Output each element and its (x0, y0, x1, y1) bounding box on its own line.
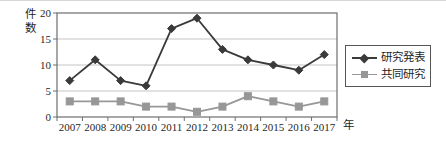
y-tick-label: 0 (46, 111, 52, 123)
square-marker-icon (194, 108, 201, 115)
y-tick-label: 10 (40, 59, 52, 71)
legend-swatch (352, 70, 377, 79)
x-tick-label: 2016 (288, 121, 311, 133)
diamond-marker-icon (168, 25, 176, 33)
x-tick-label: 2017 (313, 121, 336, 133)
x-tick-label: 2010 (135, 121, 158, 133)
square-marker-icon (168, 103, 175, 110)
diamond-marker-icon (295, 66, 303, 74)
x-tick-label: 2007 (59, 121, 82, 133)
legend-item-1: 共同研究 (352, 69, 430, 81)
diamond-marker-icon (142, 82, 150, 90)
square-marker-icon (361, 71, 368, 78)
line-chart-figure: 0510152020072008200920102011201220132014… (0, 0, 446, 144)
y-axis-title: 件数 (23, 8, 35, 36)
diamond-marker-icon (320, 51, 328, 59)
square-marker-icon (66, 98, 73, 105)
x-tick-label: 2012 (186, 121, 208, 133)
square-marker-icon (219, 103, 226, 110)
square-marker-icon (321, 98, 328, 105)
diamond-marker-icon (244, 56, 252, 64)
diamond-marker-icon (269, 61, 277, 69)
square-marker-icon (270, 98, 277, 105)
x-tick-label: 2013 (211, 121, 234, 133)
x-tick-label: 2011 (161, 121, 183, 133)
y-tick-label: 20 (40, 7, 52, 19)
x-axis-unit-label: 年 (343, 120, 354, 132)
x-tick-label: 2014 (237, 121, 260, 133)
square-marker-icon (117, 98, 124, 105)
legend-label: 共同研究 (381, 69, 425, 81)
x-tick-label: 2008 (84, 121, 107, 133)
square-marker-icon (295, 103, 302, 110)
x-tick-label: 2015 (262, 121, 285, 133)
legend-item-0: 研究発表 (352, 52, 430, 64)
series-line-0 (70, 18, 325, 86)
legend-swatch (352, 53, 377, 62)
y-tick-label: 5 (46, 85, 52, 97)
y-tick-label: 15 (40, 33, 52, 45)
x-tick-label: 2009 (110, 121, 133, 133)
legend: 研究発表共同研究 (345, 45, 431, 87)
square-marker-icon (143, 103, 150, 110)
square-marker-icon (92, 98, 99, 105)
square-marker-icon (244, 93, 251, 100)
legend-label: 研究発表 (381, 52, 425, 64)
diamond-marker-icon (360, 53, 369, 62)
